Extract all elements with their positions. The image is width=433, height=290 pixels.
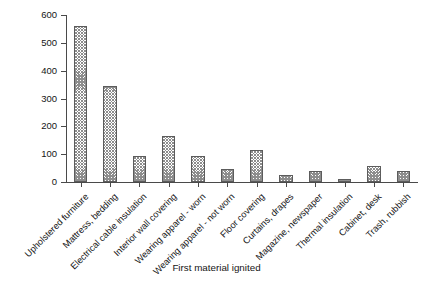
x-tick-mark <box>403 183 404 187</box>
x-tick-mark <box>110 183 111 187</box>
x-tick-mark <box>374 183 375 187</box>
x-tick-mark <box>257 183 258 187</box>
bar-chart-figure: Average number of deaths/year 0100200300… <box>0 0 433 290</box>
x-tick-mark <box>139 183 140 187</box>
x-axis-line <box>66 182 418 183</box>
y-tick-label: 100 <box>17 149 57 159</box>
bar <box>250 150 263 182</box>
bar <box>162 136 175 182</box>
x-tick-mark <box>286 183 287 187</box>
plot-area <box>66 15 418 182</box>
y-tick-label: 300 <box>17 94 57 104</box>
bar <box>221 169 234 182</box>
y-tick-label: 500 <box>17 38 57 48</box>
x-tick-mark <box>227 183 228 187</box>
y-tick-label: 0 <box>17 177 57 187</box>
bar <box>397 171 410 182</box>
y-tick-label: 600 <box>17 10 57 20</box>
x-axis-title: First material ignited <box>0 262 433 273</box>
x-tick-mark <box>198 183 199 187</box>
y-tick-label: 400 <box>17 66 57 76</box>
x-tick-mark <box>345 183 346 187</box>
bar <box>191 156 204 182</box>
bar <box>103 86 116 182</box>
x-tick-mark <box>315 183 316 187</box>
bar <box>309 171 322 182</box>
y-tick-label: 200 <box>17 121 57 131</box>
bar <box>133 156 146 182</box>
bar <box>279 175 292 182</box>
bar <box>367 166 380 182</box>
x-tick-mark <box>169 183 170 187</box>
bar <box>74 26 87 182</box>
bar <box>338 179 351 182</box>
x-tick-mark <box>81 183 82 187</box>
